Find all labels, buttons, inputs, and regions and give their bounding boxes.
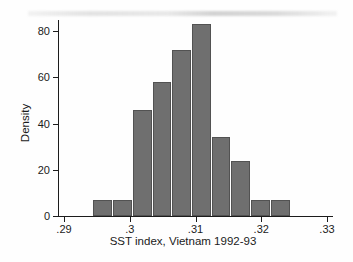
histogram-bar [172,50,191,217]
y-tick-label: 0 [14,211,50,222]
y-tick-label: 60 [14,72,50,83]
x-tick-label: .31 [179,224,213,235]
histogram-bar [271,200,290,216]
histogram-bar [251,200,270,216]
y-axis-title: Density [19,104,31,142]
histogram-bar [113,200,132,216]
x-axis-line [58,216,333,217]
x-tick-label: .32 [244,224,278,235]
x-tick-mark [130,217,131,222]
y-tick-label: 20 [14,165,50,176]
histogram-bar [93,200,112,216]
histogram-bar [231,161,250,217]
histogram-bar [212,137,231,216]
y-axis-line [58,20,59,217]
y-tick-label: 80 [14,26,50,37]
histogram-bar [153,82,172,216]
histogram-figure: 020406080.29.3.31.32.33 Density SST inde… [0,0,353,262]
x-tick-mark [261,217,262,222]
histogram-bar [133,110,152,216]
scan-artifact [28,11,337,16]
x-tick-mark [327,217,328,222]
x-axis-title: SST index, Vietnam 1992-93 [110,235,257,247]
histogram-bar [192,24,211,216]
x-tick-mark [64,217,65,222]
x-tick-mark [196,217,197,222]
x-tick-label: .33 [310,224,344,235]
x-tick-label: .29 [47,224,81,235]
x-tick-label: .3 [113,224,147,235]
